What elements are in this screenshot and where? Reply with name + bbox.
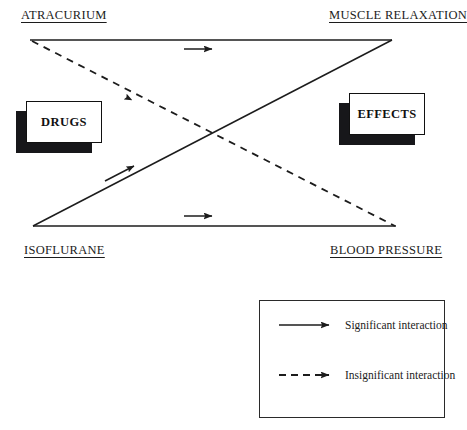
- legend-solid-arrow-icon: [277, 317, 337, 333]
- group-box-effects-face: EFFECTS: [349, 93, 425, 135]
- legend-label-insignificant: Insignificant interaction: [345, 369, 455, 381]
- legend-item-significant: Significant interaction: [260, 315, 444, 335]
- group-box-effects: EFFECTS: [339, 93, 429, 149]
- node-label-muscle-relaxation: MUSCLE RELAXATION: [329, 8, 467, 23]
- legend-dashed-arrow-icon: [277, 367, 337, 383]
- legend-item-insignificant: Insignificant interaction: [260, 365, 444, 385]
- edge-arrow-isoflurane-to-muscle: [105, 166, 134, 181]
- group-box-drugs-face: DRUGS: [26, 101, 102, 143]
- node-label-blood-pressure: BLOOD PRESSURE: [330, 243, 442, 258]
- node-label-isoflurane: ISOFLURANE: [24, 243, 105, 258]
- group-box-drugs-label: DRUGS: [41, 115, 87, 130]
- node-label-atracurium: ATRACURIUM: [21, 8, 107, 23]
- group-box-effects-label: EFFECTS: [357, 107, 416, 122]
- legend-label-significant: Significant interaction: [345, 319, 448, 331]
- legend: Significant interaction Insignificant in…: [259, 300, 445, 418]
- edge-arrow-atracurium-to-bloodpressure: [104, 86, 132, 100]
- group-box-drugs: DRUGS: [16, 101, 106, 157]
